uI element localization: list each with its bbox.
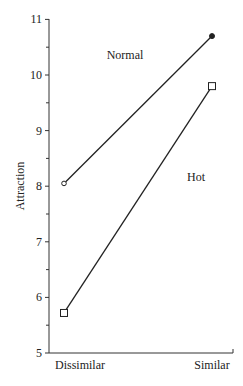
y-tick-label: 8 [36,179,42,193]
y-tick-label: 9 [36,124,42,138]
y-tick-label: 5 [36,346,42,360]
series-label-hot: Hot [187,170,206,184]
axes: 567891011 Attraction Dissimilar Similar [13,12,233,372]
y-tick-label: 10 [30,68,42,82]
x-tick-label-similar: Similar [194,358,229,372]
y-tick-label: 11 [30,12,42,26]
data-point-hot [209,83,216,90]
series-label-normal: Normal [107,48,144,62]
data-point-hot [61,309,68,316]
series-line-hot [64,86,212,313]
chart: 567891011 Attraction Dissimilar Similar … [0,0,243,386]
y-tick-label: 7 [36,235,42,249]
data-point-normal [210,34,215,39]
data-point-normal [62,181,67,186]
x-tick-label-dissimilar: Dissimilar [55,358,105,372]
y-axis-label: Attraction [13,162,27,211]
y-tick-label: 6 [36,290,42,304]
